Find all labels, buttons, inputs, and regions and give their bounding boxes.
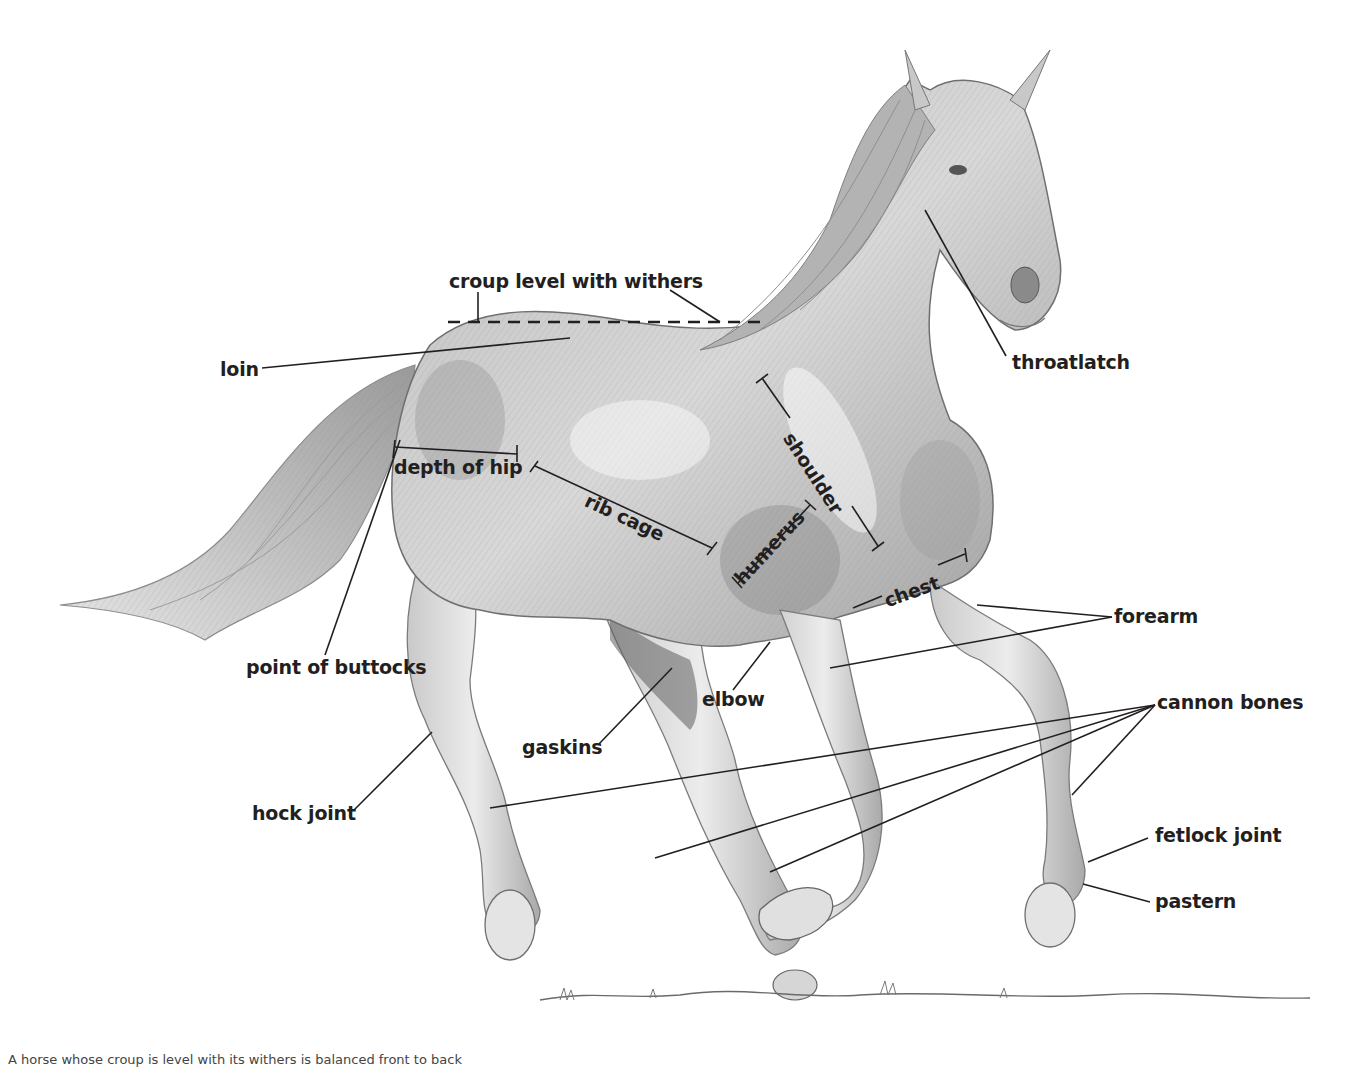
label-gaskins: gaskins — [522, 738, 602, 757]
tail-sketch — [60, 365, 415, 640]
label-depth-of-hip: depth of hip — [394, 458, 523, 477]
body-sketch — [392, 80, 1061, 646]
label-fetlock-joint: fetlock joint — [1155, 826, 1281, 845]
front-legs-sketch — [766, 580, 1085, 940]
label-elbow: elbow — [702, 690, 765, 709]
figure-caption: A horse whose croup is level with its wi… — [8, 1052, 462, 1067]
label-loin: loin — [220, 360, 259, 379]
label-cannon-bones: cannon bones — [1157, 693, 1303, 712]
label-point-of-buttocks: point of buttocks — [246, 658, 426, 677]
label-croup-level-with-withers: croup level with withers — [449, 272, 703, 291]
label-throatlatch: throatlatch — [1012, 353, 1130, 372]
label-hock-joint: hock joint — [252, 804, 356, 823]
label-forearm: forearm — [1114, 607, 1198, 626]
label-pastern: pastern — [1155, 892, 1236, 911]
